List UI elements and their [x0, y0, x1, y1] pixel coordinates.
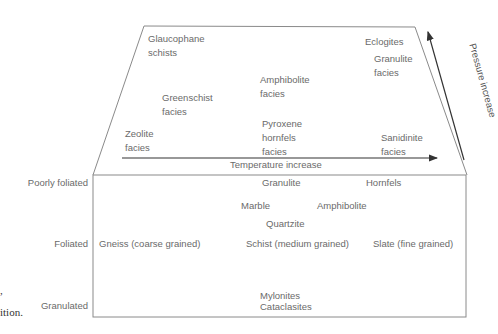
- facies-eclogites: Eclogites: [365, 35, 404, 49]
- facies-sanidinite-line2: facies: [381, 145, 423, 159]
- temperature-axis-label: Temperature increase: [230, 158, 322, 172]
- facies-pyroxene-line2: hornfels: [262, 131, 302, 145]
- facies-greenschist-line1: Greenschist: [162, 91, 213, 105]
- rock-schist: Schist (medium grained): [246, 237, 349, 251]
- row-label-poorly-foliated: Poorly foliated: [28, 176, 88, 190]
- facies-amphibolite-line1: Amphibolite: [260, 73, 310, 87]
- caption-fragment-1: ,: [0, 284, 3, 296]
- facies-glaucophane-line2: schists: [148, 46, 205, 60]
- facies-greenschist: Greenschist facies: [162, 91, 213, 119]
- facies-pyroxene-line3: facies: [262, 145, 302, 159]
- row-label-foliated: Foliated: [54, 237, 88, 251]
- caption-fragment-2: ition.: [0, 306, 23, 318]
- facies-sanidinite-line1: Sanidinite: [381, 131, 423, 145]
- facies-sanidinite: Sanidinite facies: [381, 131, 423, 159]
- rock-cataclasites: Cataclasites: [260, 300, 312, 314]
- rock-granulite: Granulite: [262, 176, 301, 190]
- pressure-arrow: [428, 32, 464, 160]
- facies-pyroxene-line1: Pyroxene: [262, 117, 302, 131]
- facies-granulite: Granulite facies: [374, 52, 413, 80]
- facies-amphibolite-line2: facies: [260, 87, 310, 101]
- facies-glaucophane: Glaucophane schists: [148, 32, 205, 60]
- facies-zeolite-line1: Zeolite: [125, 127, 154, 141]
- facies-granulite-line2: facies: [374, 66, 413, 80]
- rock-marble: Marble: [241, 199, 270, 213]
- facies-amphibolite: Amphibolite facies: [260, 73, 310, 101]
- row-label-granulated: Granulated: [41, 299, 88, 313]
- rock-amphibolite: Amphibolite: [317, 199, 367, 213]
- facies-glaucophane-line1: Glaucophane: [148, 32, 205, 46]
- rock-quartzite: Quartzite: [266, 217, 305, 231]
- facies-pyroxene-hornfels: Pyroxene hornfels facies: [262, 117, 302, 159]
- rock-gneiss: Gneiss (coarse grained): [99, 237, 200, 251]
- facies-granulite-line1: Granulite: [374, 52, 413, 66]
- facies-zeolite: Zeolite facies: [125, 127, 154, 155]
- rock-slate: Slate (fine grained): [373, 237, 453, 251]
- rock-hornfels: Hornfels: [366, 176, 401, 190]
- facies-greenschist-line2: facies: [162, 105, 213, 119]
- facies-zeolite-line2: facies: [125, 141, 154, 155]
